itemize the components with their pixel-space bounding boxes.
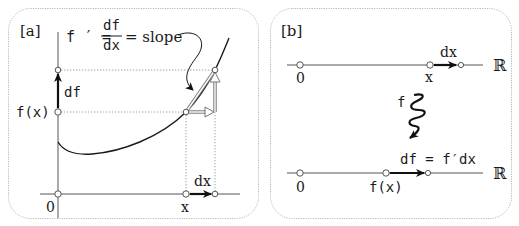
point-origin-top [297, 62, 303, 68]
formula-denominator: dx [103, 37, 120, 53]
origin-label-top: 0 [296, 70, 305, 86]
squiggle-arrow-icon [410, 94, 425, 138]
point-curve-x [183, 109, 189, 115]
origin-label: 0 [46, 199, 55, 215]
slope-formula: f ′ = df dx = slope [66, 17, 182, 53]
fx-label: f(x) [16, 104, 50, 120]
point-fx-bottom [383, 170, 389, 176]
point-x-top [427, 62, 433, 68]
df-label: df [64, 84, 81, 100]
panel-b: [b] 0 x dx ℝ f 0 f(x) df = f′dx [271, 9, 512, 219]
point-x-plus-dx-top [458, 62, 463, 67]
x-label: x [181, 199, 189, 215]
point-origin [55, 191, 61, 197]
function-map-arrow: f [397, 94, 425, 138]
panel-a: [a] f ′ = df dx = slope [9, 9, 259, 219]
fx-label-bottom: f(x) [369, 179, 403, 195]
derivative-diagram: [a] f ′ = df dx = slope [0, 0, 519, 226]
map-f-label: f [397, 94, 405, 110]
point-fx-plus-df-bottom [425, 170, 430, 175]
dx-label: dx [194, 173, 211, 189]
df-equation-label: df = f′dx [400, 151, 476, 167]
reals-label-top: ℝ [493, 56, 507, 75]
hollow-dx-arrow [188, 107, 214, 117]
point-fx [55, 109, 61, 115]
function-curve [58, 38, 229, 154]
origin-label-bottom: 0 [296, 179, 305, 195]
panel-b-label: [b] [281, 22, 302, 40]
dx-label-top: dx [440, 44, 457, 60]
hollow-df-arrow [210, 72, 220, 112]
point-f-plus-df [55, 67, 61, 73]
point-x [183, 191, 189, 197]
point-x-plus-dx [212, 191, 218, 197]
codomain-number-line: 0 f(x) df = f′dx ℝ [287, 151, 507, 195]
reals-label-bottom: ℝ [493, 164, 507, 183]
point-origin-bottom [297, 170, 303, 176]
panel-a-label: [a] [20, 22, 41, 40]
x-label-top: x [425, 69, 433, 85]
formula-rhs: = slope [125, 28, 182, 46]
formula-numerator: df [103, 17, 120, 33]
point-curve-x-plus-dx [212, 67, 218, 73]
domain-number-line: 0 x dx ℝ [287, 44, 507, 86]
